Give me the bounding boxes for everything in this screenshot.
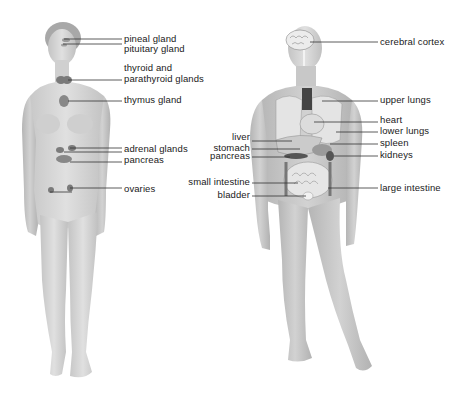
- label-large-intestine: large intestine: [380, 182, 441, 193]
- label-ovaries: ovaries: [124, 183, 155, 194]
- label-lower-lungs: lower lungs: [380, 125, 429, 136]
- label-parathyroid-glands: parathyroid glands: [124, 73, 204, 84]
- female-left-leg: [40, 215, 68, 376]
- label-heart: heart: [380, 114, 402, 125]
- label-adrenal-glands: adrenal glands: [124, 143, 188, 154]
- adrenal-gland-shape: [56, 147, 64, 153]
- label-cerebral-cortex: cerebral cortex: [380, 36, 444, 47]
- trachea-shape: [302, 88, 312, 110]
- thymus-gland-shape: [59, 95, 69, 107]
- male-left-leg: [278, 200, 312, 362]
- label-small-intestine: small intestine: [188, 176, 250, 187]
- label-liver: liver: [232, 131, 250, 142]
- female-right-leg: [68, 212, 98, 377]
- male-right-leg: [308, 198, 372, 371]
- label-pituitary-gland: pituitary gland: [124, 43, 185, 54]
- heart-shape: [300, 114, 324, 134]
- label-bladder: bladder: [218, 189, 250, 200]
- male-figure: [250, 26, 372, 371]
- label-upper-lungs: upper lungs: [380, 94, 431, 105]
- pancreas-shape: [284, 153, 308, 159]
- pancreas-shape: [56, 155, 72, 163]
- female-figure: [22, 22, 110, 377]
- label-kidneys: kidneys: [380, 149, 413, 160]
- label-thyroid-line1: thyroid and: [124, 62, 172, 73]
- anatomy-diagram: pineal gland pituitary gland thyroid and…: [0, 0, 462, 396]
- female-head: [48, 29, 76, 65]
- label-thymus-gland: thymus gland: [124, 94, 182, 105]
- brain-shape: [286, 30, 314, 50]
- label-pancreas-male: pancreas: [210, 150, 250, 161]
- kidney-shape: [326, 151, 334, 161]
- label-pancreas-female: pancreas: [124, 154, 164, 165]
- label-spleen: spleen: [380, 137, 409, 148]
